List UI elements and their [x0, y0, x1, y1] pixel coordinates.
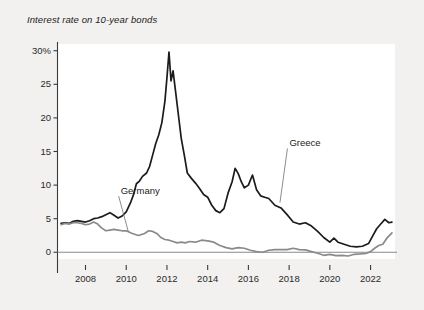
- x-axis-tick-label: 2022: [351, 273, 391, 284]
- y-axis-tick-label: 0: [9, 246, 51, 257]
- x-axis-tick-label: 2010: [106, 273, 146, 284]
- series-line-greece: [61, 52, 392, 247]
- leader-line-greece: [280, 148, 287, 202]
- axes-group: [54, 42, 398, 273]
- series-label-germany: Germany: [121, 185, 160, 196]
- y-axis-tick-label: 30%: [9, 45, 51, 56]
- x-axis-tick-label: 2016: [228, 273, 268, 284]
- leader-line-germany: [119, 196, 129, 231]
- chart-plot: [0, 0, 424, 310]
- y-axis-tick-label: 10: [9, 179, 51, 190]
- series-label-greece: Greece: [289, 137, 320, 148]
- x-axis-tick-label: 2020: [310, 273, 350, 284]
- y-axis-tick-label: 25: [9, 78, 51, 89]
- chart-screenshot: Interest rate on 10-year bonds 30%252015…: [0, 0, 424, 310]
- y-axis-tick-label: 5: [9, 213, 51, 224]
- y-axis-tick-label: 15: [9, 146, 51, 157]
- series-group: [61, 52, 392, 256]
- x-axis-tick-label: 2012: [147, 273, 187, 284]
- series-line-germany: [61, 222, 392, 256]
- x-axis-tick-label: 2008: [66, 273, 106, 284]
- y-axis-tick-label: 20: [9, 112, 51, 123]
- x-axis-tick-label: 2014: [188, 273, 228, 284]
- x-axis-tick-label: 2018: [269, 273, 309, 284]
